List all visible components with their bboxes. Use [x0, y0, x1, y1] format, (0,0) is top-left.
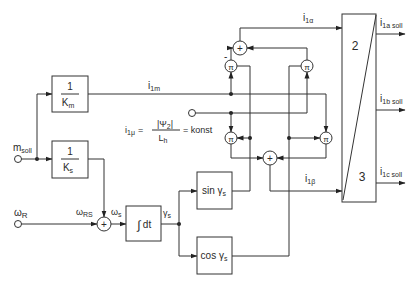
transform-2-to-3-block: 2 3 — [342, 14, 376, 202]
input-i1mu — [189, 110, 196, 117]
svg-text:π: π — [228, 135, 234, 144]
signal-label-i1m: i1m — [148, 80, 160, 92]
gain-block-1-over-ks: 1 Ks — [52, 141, 88, 178]
svg-text:msoll: msoll — [13, 142, 32, 154]
output-label-i1a: i1a soll — [380, 17, 403, 29]
svg-text:cos γs: cos γs — [201, 250, 228, 262]
svg-text:+: + — [237, 43, 243, 54]
svg-text:π: π — [228, 63, 234, 72]
signal-label-omega-rs: ωRS — [76, 207, 93, 218]
svg-text:|Ψ2|: |Ψ2| — [157, 119, 173, 130]
output-label-i1b: i1b soll — [380, 93, 403, 105]
gain-block-1-over-km: 1 Km — [52, 76, 88, 112]
minus-sign: - — [224, 51, 227, 62]
integrator-block: ∫ dt — [126, 206, 161, 241]
sum-junction-alpha: + — [233, 41, 247, 55]
svg-text:+: + — [101, 219, 107, 230]
signal-label-omega-s: ωs — [111, 207, 122, 218]
output-label-i1c: i1c soll — [380, 166, 403, 178]
signal-label-i1alpha: i1α — [303, 12, 313, 24]
svg-text:3: 3 — [359, 170, 366, 184]
multiplier-top-right: π — [301, 60, 313, 72]
svg-text:2: 2 — [352, 39, 359, 53]
signal-label-i1beta: i1β — [305, 173, 315, 186]
svg-text:π: π — [304, 63, 310, 72]
sum-junction-beta: + — [263, 151, 277, 165]
sin-block: sin γs — [197, 172, 232, 209]
signal-label-gamma-s: γs — [163, 208, 172, 219]
svg-text:ωR: ωR — [14, 207, 28, 220]
svg-text:Lh: Lh — [159, 133, 168, 144]
svg-text:+: + — [267, 153, 273, 164]
flux-current-formula: i1μ= |Ψ2| Lh = konst — [125, 119, 213, 144]
block-diagram: msoll ωR 1 Km 1 Ks i1m i1μ= |Ψ2| Lh = ko… — [0, 0, 417, 290]
cos-block: cos γs — [197, 237, 232, 274]
svg-text:i1μ=: i1μ= — [125, 125, 143, 137]
svg-text:1: 1 — [67, 81, 73, 92]
multiplier-bottom-left: π — [225, 132, 237, 144]
multiplier-bottom-right: π — [320, 132, 332, 144]
svg-text:1: 1 — [67, 146, 73, 157]
svg-text:dt: dt — [143, 219, 152, 230]
svg-text:= konst: = konst — [183, 125, 213, 135]
svg-text:∫: ∫ — [136, 218, 141, 232]
svg-text:π: π — [323, 135, 329, 144]
sum-junction-omega: + — [97, 217, 111, 231]
